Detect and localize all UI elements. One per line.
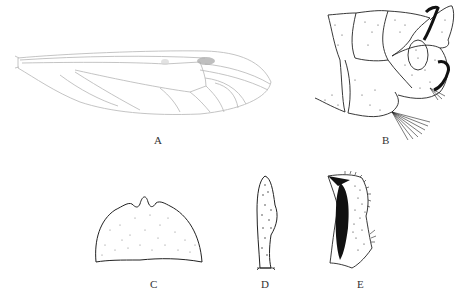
dark-sclerite <box>336 183 349 260</box>
panel-label-e: E <box>357 279 364 290</box>
panel-label-c: C <box>150 279 157 290</box>
gonostylus-drawing <box>320 168 395 276</box>
wing-stigma <box>197 57 215 65</box>
panel-b-terminalia <box>300 0 463 150</box>
dark-sclerite <box>424 7 438 40</box>
stipple <box>102 215 196 256</box>
panel-label-d: D <box>261 279 269 290</box>
terminalia-drawing <box>300 0 463 150</box>
panel-c-plate <box>90 190 230 270</box>
panel-e-gonostylus <box>320 168 395 276</box>
panel-label-b: B <box>382 135 389 146</box>
scientific-figure: A <box>0 0 463 294</box>
stipple <box>352 185 365 250</box>
plate-drawing <box>90 190 230 270</box>
appendage-drawing <box>245 170 290 275</box>
panel-d-appendage <box>245 170 290 275</box>
panel-label-a: A <box>154 135 162 146</box>
wing-drawing <box>0 0 300 150</box>
panel-a-wing <box>0 0 300 150</box>
